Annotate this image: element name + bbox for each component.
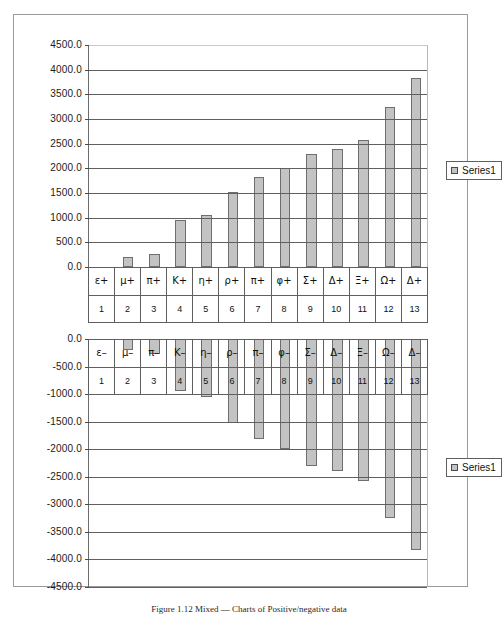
category-column: π–3 — [141, 340, 167, 394]
bar — [411, 78, 421, 267]
gridline — [89, 144, 427, 145]
y-tick-label: -1000.0 — [47, 389, 82, 399]
category-index-label: 10 — [324, 296, 349, 323]
y-tick-mark — [85, 168, 89, 169]
gridline — [89, 559, 427, 560]
category-column: Σ–9 — [298, 340, 324, 394]
y-tick-label: -3000.0 — [47, 499, 82, 509]
category-symbol-label: Δ– — [402, 340, 427, 368]
y-tick-label: 4000.0 — [50, 65, 82, 75]
category-column: ρ–6 — [219, 340, 245, 394]
y-tick-label: 1000.0 — [50, 213, 82, 223]
y-tick-mark — [85, 144, 89, 145]
y-tick-mark — [85, 193, 89, 194]
category-column: ρ+6 — [219, 268, 245, 322]
legend-label: Series1 — [462, 166, 496, 176]
category-symbol-label: Δ– — [324, 340, 349, 368]
y-tick-label: 1500.0 — [50, 188, 82, 198]
legend-swatch-icon — [451, 167, 458, 174]
category-index-label: 9 — [298, 368, 323, 395]
category-symbol-label: ε+ — [89, 268, 114, 296]
category-index-label: 7 — [245, 296, 270, 323]
y-tick-mark — [85, 242, 89, 243]
category-symbol-label: π– — [245, 340, 270, 368]
category-symbol-label: Ω+ — [376, 268, 401, 296]
y-tick-mark — [85, 587, 89, 588]
category-symbol-label: π+ — [245, 268, 270, 296]
category-index-label: 13 — [402, 296, 427, 323]
gridline — [89, 70, 427, 71]
category-index-label: 4 — [167, 296, 192, 323]
category-column: Δ–10 — [324, 340, 350, 394]
gridline — [89, 587, 427, 588]
category-column: φ–8 — [272, 340, 298, 394]
category-column: Ξ+11 — [350, 268, 376, 322]
gridline — [89, 532, 427, 533]
category-column: Ω+12 — [376, 268, 402, 322]
gridline — [89, 45, 427, 46]
category-column: K–4 — [167, 340, 193, 394]
bar — [175, 220, 185, 267]
category-symbol-label: Ξ+ — [350, 268, 375, 296]
gridline — [89, 218, 427, 219]
y-axis-negative: 0.0-500.0-1000.0-1500.0-2000.0-2500.0-30… — [32, 327, 88, 599]
chart-positive: 4500.04000.03500.03000.02500.02000.01500… — [32, 35, 479, 323]
category-symbol-label: Σ+ — [298, 268, 323, 296]
bar — [332, 149, 342, 267]
y-tick-label: 0.0 — [67, 334, 82, 344]
bar — [123, 257, 133, 267]
chart-negative: 0.0-500.0-1000.0-1500.0-2000.0-2500.0-30… — [32, 327, 479, 599]
category-symbol-label: Δ+ — [324, 268, 349, 296]
y-tick-label: 0.0 — [67, 262, 82, 272]
bar — [306, 154, 316, 267]
category-index-label: 11 — [350, 368, 375, 395]
gridline — [89, 119, 427, 120]
y-tick-label: -2500.0 — [47, 472, 82, 482]
category-symbol-label: ε– — [89, 340, 114, 368]
bar — [228, 192, 238, 267]
y-tick-label: -2000.0 — [47, 444, 82, 454]
legend-label: Series1 — [462, 463, 496, 473]
category-column: μ–2 — [115, 340, 141, 394]
y-tick-mark — [85, 504, 89, 505]
category-column: K+4 — [167, 268, 193, 322]
gridline — [89, 422, 427, 423]
bar — [149, 254, 159, 267]
category-index-label: 10 — [324, 368, 349, 395]
category-index-label: 12 — [376, 296, 401, 323]
bar — [201, 215, 211, 267]
y-tick-label: 2500.0 — [50, 139, 82, 149]
plot-area-positive — [88, 45, 428, 267]
gridline — [89, 94, 427, 95]
y-tick-label: -500.0 — [52, 362, 82, 372]
category-symbol-label: K+ — [167, 268, 192, 296]
y-tick-mark — [85, 45, 89, 46]
category-symbol-label: Ξ– — [350, 340, 375, 368]
gridline — [89, 504, 427, 505]
category-index-label: 8 — [272, 296, 297, 323]
category-symbol-label: μ+ — [115, 268, 140, 296]
category-column: Δ–13 — [402, 340, 427, 394]
category-column: π+7 — [245, 268, 271, 322]
y-tick-mark — [85, 449, 89, 450]
category-index-label: 2 — [115, 296, 140, 323]
y-tick-label: 3000.0 — [50, 114, 82, 124]
category-index-label: 1 — [89, 368, 114, 395]
category-symbol-label: π+ — [141, 268, 166, 296]
legend-positive: Series1 — [446, 161, 502, 180]
category-symbol-label: ρ– — [219, 340, 244, 368]
y-tick-mark — [85, 70, 89, 71]
y-tick-label: 4500.0 — [50, 40, 82, 50]
gridline — [89, 477, 427, 478]
y-tick-label: -4500.0 — [47, 582, 82, 592]
category-column: Σ+9 — [298, 268, 324, 322]
category-column: ε–1 — [89, 340, 115, 394]
legend-negative: Series1 — [446, 458, 502, 477]
category-symbol-label: φ– — [272, 340, 297, 368]
y-tick-mark — [85, 218, 89, 219]
category-symbol-label: π– — [141, 340, 166, 368]
category-column: Δ+10 — [324, 268, 350, 322]
category-column: Ξ–11 — [350, 340, 376, 394]
category-index-label: 13 — [402, 368, 427, 395]
